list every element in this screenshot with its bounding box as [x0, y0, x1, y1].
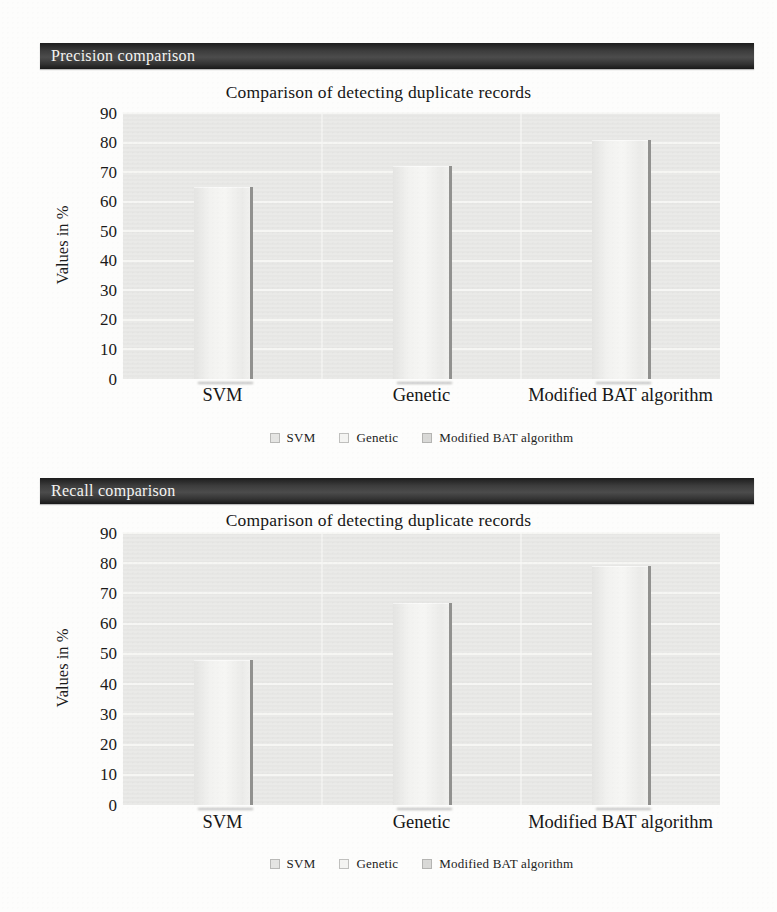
- y-tick-label: 80: [58, 553, 117, 574]
- x-axis-label-svm: SVM: [128, 811, 318, 833]
- legend-label: Modified BAT algorithm: [439, 856, 573, 872]
- section-header-bar: Recall comparison: [40, 478, 754, 504]
- plot-area: [123, 533, 720, 805]
- y-tick-label: 10: [58, 764, 117, 785]
- scanned-figure-page: { "chart_data": [ { "type": "bar", "sect…: [0, 0, 777, 912]
- legend-label: Genetic: [356, 856, 398, 872]
- y-tick-label: 40: [58, 674, 117, 695]
- x-axis-label-modified-bat-algorithm: Modified BAT algorithm: [526, 811, 716, 833]
- v-gridline: [321, 533, 323, 805]
- x-axis-label-genetic: Genetic: [327, 811, 517, 833]
- v-gridline: [520, 533, 522, 805]
- y-tick-label: 60: [58, 613, 117, 634]
- legend-label: SVM: [287, 856, 316, 872]
- y-tick-label: 0: [58, 795, 117, 816]
- bar-svm: [194, 660, 253, 805]
- y-tick-label: 90: [58, 523, 117, 544]
- legend-marker-icon: [270, 859, 280, 869]
- h-gridline: [123, 532, 720, 534]
- y-tick-label: 70: [58, 583, 117, 604]
- h-gridline: [123, 562, 720, 564]
- chart-title: Comparison of detecting duplicate record…: [80, 510, 677, 531]
- legend-marker-icon: [339, 859, 349, 869]
- y-tick-label: 30: [58, 704, 117, 725]
- legend: SVMGeneticModified BAT algorithm: [123, 856, 720, 872]
- legend-item-svm: SVM: [270, 856, 316, 872]
- y-tick-label: 20: [58, 734, 117, 755]
- bar-modified-bat-algorithm: [592, 566, 651, 805]
- recall-comparison-section: Recall comparison Comparison of detectin…: [0, 0, 777, 912]
- legend-item-modified-bat-algorithm: Modified BAT algorithm: [422, 856, 573, 872]
- legend-marker-icon: [422, 859, 432, 869]
- y-tick-label: 50: [58, 643, 117, 664]
- legend-item-genetic: Genetic: [339, 856, 398, 872]
- bar-genetic: [393, 603, 452, 805]
- section-header-label: Recall comparison: [40, 478, 754, 504]
